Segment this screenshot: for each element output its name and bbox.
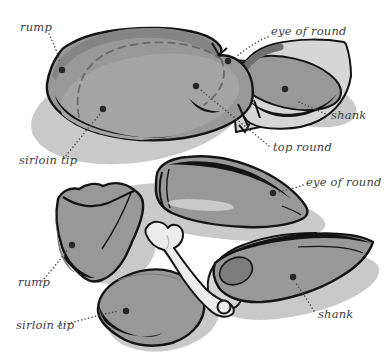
cut-eye-of-round [156, 156, 308, 227]
dot-eye-of-round-top [225, 58, 231, 64]
dot-shank-top [282, 86, 288, 92]
dot-eye-of-round-middle [270, 190, 276, 196]
label-sirloin-tip-bottom: sirloin tip [16, 318, 75, 332]
beef-cuts-diagram: rump eye of round shank top round sirloi… [0, 0, 392, 360]
label-eye-of-round-top: eye of round [271, 24, 347, 38]
label-shank-bottom: shank [318, 307, 354, 321]
label-shank-top: shank [331, 108, 367, 122]
label-top-round: top round [273, 140, 332, 154]
dot-sirloin-tip-bottom [123, 308, 129, 314]
label-sirloin-tip-top: sirloin tip [19, 153, 78, 167]
label-eye-of-round-middle: eye of round [306, 175, 382, 189]
dot-rump-bottom [69, 242, 75, 248]
dot-shank-bottom [290, 274, 296, 280]
beef-round-cuts-figure: rump eye of round shank top round sirloi… [0, 0, 392, 360]
label-rump-bottom: rump [18, 275, 50, 289]
dot-rump-top [59, 67, 65, 73]
dot-sirloin-tip-top [100, 106, 106, 112]
shank-bone-knuckle [218, 301, 231, 314]
dot-top-round [193, 83, 199, 89]
label-rump-top: rump [20, 20, 52, 34]
